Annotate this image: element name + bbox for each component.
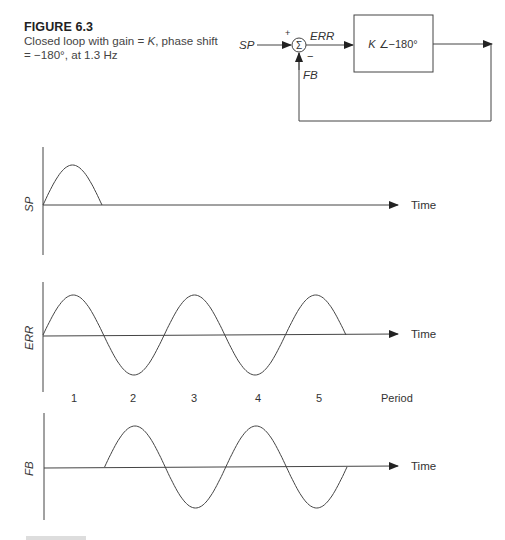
err-graph: ERR Time: [23, 282, 436, 392]
block-diagram: SP + Σ − ERR K∠−180° FB: [239, 15, 492, 121]
fb-label: FB: [303, 69, 318, 81]
sp-ylabel: SP: [23, 196, 35, 212]
sp-time-label: Time: [411, 199, 436, 211]
period-label: Period: [381, 392, 413, 404]
err-label: ERR: [310, 30, 334, 42]
period-tick-2: 2: [130, 392, 136, 404]
sp-waveform: [43, 165, 102, 205]
err-time-label: Time: [411, 328, 436, 340]
err-time-axis: [43, 334, 398, 336]
minus-sign: −: [307, 50, 313, 62]
period-tick-3: 3: [191, 392, 197, 404]
gain-block-label: K∠−180°: [368, 38, 418, 50]
sp-input-label: SP: [239, 39, 255, 51]
fb-time-axis: [44, 466, 398, 468]
period-axis: 1 2 3 4 5 Period: [71, 392, 413, 404]
period-tick-4: 4: [255, 392, 261, 404]
next-caption-fragment: [26, 536, 86, 540]
figure-canvas: SP + Σ − ERR K∠−180° FB SP Time ERR Time…: [0, 0, 505, 540]
period-tick-1: 1: [71, 392, 77, 404]
sigma-icon: Σ: [296, 40, 302, 51]
sp-graph: SP Time: [23, 147, 436, 255]
fb-time-label: Time: [411, 460, 436, 472]
period-tick-5: 5: [316, 392, 322, 404]
fb-ylabel: FB: [23, 461, 35, 476]
err-ylabel: ERR: [23, 326, 35, 350]
feedback-path: [299, 44, 491, 121]
plus-sign: +: [285, 28, 290, 38]
fb-graph: FB Time: [23, 413, 436, 520]
